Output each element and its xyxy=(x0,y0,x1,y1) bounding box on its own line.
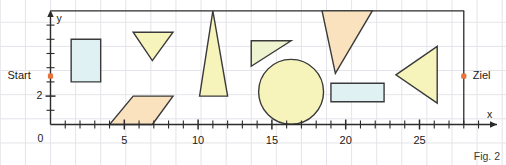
x-axis-tick-label: 5 xyxy=(121,134,127,146)
x-axis-arrowhead xyxy=(490,121,497,127)
shape-rectangle-blue-wide xyxy=(331,83,384,101)
ziel-marker-label: Ziel xyxy=(473,70,491,81)
axis-origin-label: 0 xyxy=(38,133,44,144)
y-axis-tick-label-2: 2 xyxy=(37,90,43,101)
figure-caption: Fig. 2 xyxy=(474,150,500,162)
x-axis-tick-label: 20 xyxy=(340,134,352,146)
shape-triangle-yellow-tall xyxy=(200,11,228,96)
start-marker-label: Start xyxy=(8,70,31,81)
diagram-canvas: 510152025 xyxy=(0,0,506,165)
shape-circle-yellow xyxy=(259,59,324,124)
x-axis-tick-label: 15 xyxy=(266,134,278,146)
shape-rectangle-blue-tall xyxy=(71,39,101,82)
x-axis-tick-label: 10 xyxy=(192,134,204,146)
shape-triangle-orange-funnel xyxy=(322,11,372,73)
shape-parallelogram-orange xyxy=(110,96,173,124)
figure-geometry-diagram: 510152025 Start Ziel 0 y x 2 Fig. 2 xyxy=(0,0,506,165)
x-axis-tick-label: 25 xyxy=(413,134,425,146)
start-marker-dot xyxy=(48,74,53,79)
ziel-marker-dot xyxy=(461,74,466,79)
y-axis-label: y xyxy=(57,13,62,24)
x-axis-label: x xyxy=(487,109,492,120)
